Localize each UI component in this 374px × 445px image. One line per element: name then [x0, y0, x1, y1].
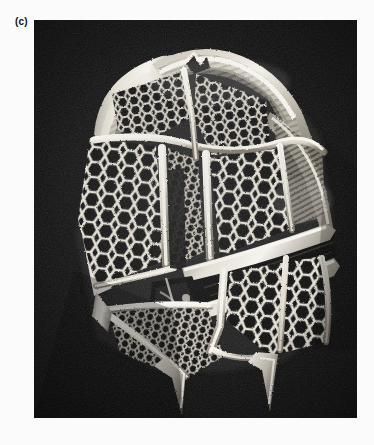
figure-root: (c) [0, 0, 374, 445]
film-grain-dark [34, 20, 357, 418]
micrograph-canvas [34, 20, 357, 418]
micrograph-plate [34, 20, 357, 418]
specimen-illustration [34, 20, 357, 418]
panel-label: (c) [15, 16, 28, 28]
